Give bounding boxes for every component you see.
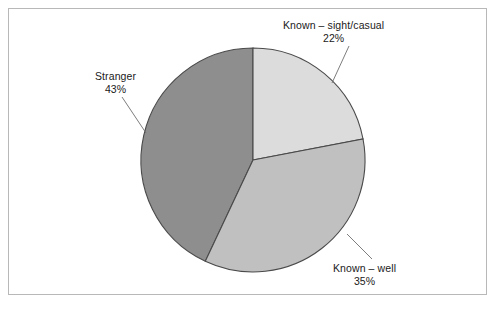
leader-line-stranger (122, 97, 146, 133)
pie-label-stranger: Stranger 43% (95, 70, 136, 97)
pie-chart-figure: Known – sight/casual 22% Known – well 35… (0, 0, 497, 311)
pie-label-stranger-value: 43% (95, 83, 136, 96)
pie-label-known-sight-casual-name: Known – sight/casual (283, 19, 384, 32)
pie-label-known-sight-casual: Known – sight/casual 22% (283, 19, 384, 46)
pie-label-stranger-name: Stranger (95, 70, 136, 83)
pie-label-known-well: Known – well 35% (333, 262, 396, 289)
pie-label-known-well-name: Known – well (333, 262, 396, 275)
leader-line-known-well (347, 234, 372, 259)
pie-chart-canvas (0, 0, 497, 311)
leader-line-known-sight-casual (332, 46, 349, 83)
pie-label-known-sight-casual-value: 22% (283, 32, 384, 45)
pie-label-known-well-value: 35% (333, 275, 396, 288)
